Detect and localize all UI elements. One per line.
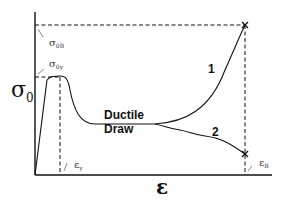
curve-1-label: 1 <box>208 63 215 75</box>
eps-yield-leader <box>64 163 67 171</box>
ductile-label: Ductile <box>104 109 144 121</box>
stress-strain-diagram <box>0 0 286 203</box>
curve-2-label: 2 <box>212 126 219 138</box>
curve-1 <box>155 25 245 124</box>
sigma-break-label: σ0B <box>49 38 64 49</box>
x-axis-label: ε <box>156 177 168 197</box>
draw-label: Draw <box>104 123 133 135</box>
sigma-yield-label: σ0y <box>49 59 63 70</box>
eps-break-leader <box>248 166 252 171</box>
eps-break-label: εB <box>259 158 269 169</box>
y-axis-label: σ0 <box>11 79 34 104</box>
curve-2 <box>155 124 245 154</box>
sigma-break-leader <box>38 29 43 37</box>
curve-common <box>35 76 155 175</box>
sigma-yield-leader <box>38 69 44 74</box>
eps-yield-label: εy <box>74 160 83 171</box>
